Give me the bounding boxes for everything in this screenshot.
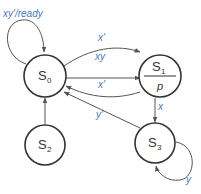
state-s1-output: p (156, 80, 163, 92)
state-s0: S 0 (24, 55, 66, 97)
label-s0-s1-xy: xy (94, 51, 106, 62)
label-s0-s1-xprime: x' (97, 32, 106, 43)
state-s3: S 3 (135, 123, 175, 163)
state-s3-sub: 3 (157, 143, 162, 152)
state-s1-sub: 1 (161, 67, 166, 76)
state-s1-name: S (152, 59, 161, 74)
label-s1-s3: x (157, 101, 164, 112)
label-s3-s0: y' (95, 109, 104, 120)
state-s2-sub: 2 (47, 145, 52, 154)
state-s2: S 2 (25, 125, 65, 165)
label-s1-s0-xprime: x' (97, 79, 106, 90)
state-s2-name: S (38, 137, 47, 152)
state-diagram: xy'/ready x' xy x' x y' y S 0 S 1 p S 2 … (0, 0, 201, 194)
state-s3-name: S (148, 135, 157, 150)
label-s3-self: y (185, 174, 192, 185)
state-s1: S 1 p (139, 55, 181, 97)
state-s0-name: S (38, 68, 47, 83)
label-s0-self: xy'/ready (2, 8, 44, 19)
state-s0-sub: 0 (47, 76, 52, 85)
